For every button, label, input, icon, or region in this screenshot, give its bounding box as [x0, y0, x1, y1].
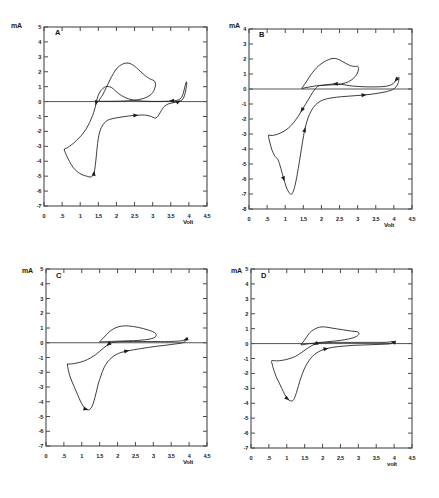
x-tick-label: 1 — [79, 213, 82, 219]
y-tick-label: 0 — [237, 341, 248, 347]
axes-frame — [249, 29, 412, 209]
y-tick-label: -5 — [30, 173, 41, 179]
y-tick-label: -3 — [237, 385, 248, 391]
y-tick-label: 0 — [30, 99, 41, 105]
y-tick-label: 4 — [235, 26, 246, 32]
y-tick-label: -8 — [235, 206, 246, 212]
x-tick-label: 2.5 — [131, 213, 138, 219]
panel-b-plot — [219, 0, 439, 249]
x-tick-label: 0 — [248, 216, 251, 222]
y-tick-label: -1 — [237, 356, 248, 362]
y-tick-label: 3 — [235, 41, 246, 47]
direction-arrow-icon — [92, 170, 97, 176]
x-tick-label: 1.5 — [300, 216, 307, 222]
direction-arrow-icon — [281, 176, 286, 182]
x-tick-label: 0 — [43, 213, 46, 219]
y-tick-label: -4 — [235, 146, 246, 152]
y-tick-label: -2 — [237, 370, 248, 376]
direction-arrow-icon — [302, 127, 307, 133]
direction-arrow-icon — [94, 100, 99, 106]
figure-panel-grid: mA A Volt 0.511.522.533.544.5543210-1-2-… — [0, 0, 439, 498]
y-tick-label: -3 — [32, 384, 43, 390]
panel-b: mA B Volt 0.511.522.533.544.543210-1-2-3… — [219, 0, 439, 249]
y-tick-label: -1 — [235, 101, 246, 107]
x-tick-label: 3.5 — [168, 453, 175, 459]
direction-arrow-icon — [361, 93, 366, 98]
y-tick-label: 5 — [32, 266, 43, 272]
x-tick-label: 3.5 — [372, 216, 379, 222]
y-tick-label: -5 — [237, 415, 248, 421]
y-tick-label: -2 — [235, 116, 246, 122]
y-tick-label: -4 — [30, 158, 41, 164]
y-tick-label: -6 — [235, 176, 246, 182]
y-tick-label: 2 — [30, 69, 41, 75]
y-tick-label: -1 — [30, 114, 41, 120]
x-tick-label: 1 — [80, 453, 83, 459]
y-tick-label: -5 — [235, 161, 246, 167]
y-tick-label: 1 — [30, 84, 41, 90]
x-tick-label: 1.5 — [95, 213, 102, 219]
y-tick-label: 2 — [237, 311, 248, 317]
direction-arrow-icon — [333, 82, 338, 86]
x-tick-label: .5 — [267, 455, 271, 461]
y-tick-label: 3 — [32, 296, 43, 302]
x-tick-label: 4.5 — [204, 213, 211, 219]
x-tick-label: 2 — [116, 453, 119, 459]
x-tick-label: 4 — [393, 455, 396, 461]
y-tick-label: -1 — [32, 355, 43, 361]
y-tick-label: -7 — [32, 443, 43, 449]
y-tick-label: -3 — [235, 131, 246, 137]
x-tick-label: 1.5 — [96, 453, 103, 459]
x-tick-label: 4 — [392, 216, 395, 222]
y-tick-label: 1 — [32, 325, 43, 331]
direction-arrow-icon — [133, 113, 138, 117]
y-tick-label: -7 — [237, 445, 248, 451]
x-tick-label: 1 — [285, 455, 288, 461]
y-tick-label: 4 — [32, 281, 43, 287]
voltammogram-trace — [268, 77, 398, 194]
y-tick-label: -6 — [32, 428, 43, 434]
y-tick-label: -5 — [32, 414, 43, 420]
voltammogram-trace-upper — [100, 326, 157, 342]
x-tick-label: 4.5 — [204, 453, 211, 459]
x-tick-label: .5 — [62, 453, 66, 459]
y-tick-label: -7 — [235, 191, 246, 197]
x-tick-label: 1.5 — [301, 455, 308, 461]
x-tick-label: 2.5 — [336, 216, 343, 222]
direction-arrow-icon — [83, 407, 89, 412]
y-tick-label: -2 — [30, 128, 41, 134]
axes-frame — [251, 269, 412, 448]
voltammogram-trace — [67, 339, 186, 410]
x-tick-label: 3 — [152, 453, 155, 459]
y-tick-label: 2 — [235, 56, 246, 62]
panel-a-plot — [0, 0, 219, 249]
x-tick-label: 3 — [357, 455, 360, 461]
direction-arrow-icon — [323, 346, 329, 351]
y-tick-label: 3 — [237, 296, 248, 302]
x-tick-label: 1 — [284, 216, 287, 222]
x-tick-label: 4.5 — [409, 216, 416, 222]
voltammogram-trace-upper — [99, 63, 156, 101]
x-tick-label: 3 — [151, 213, 154, 219]
voltammogram-trace — [64, 82, 186, 177]
x-tick-label: 2.5 — [337, 455, 344, 461]
panel-d: mA D volt 0.511.522.533.544.5543210-1-2-… — [219, 249, 439, 498]
x-tick-label: 3 — [356, 216, 359, 222]
x-tick-label: .5 — [265, 216, 269, 222]
x-tick-label: 4 — [187, 213, 190, 219]
y-tick-label: -6 — [237, 430, 248, 436]
x-tick-label: 2.5 — [132, 453, 139, 459]
x-tick-label: 2 — [321, 455, 324, 461]
y-tick-label: 0 — [235, 86, 246, 92]
y-tick-label: -7 — [30, 203, 41, 209]
y-tick-label: 5 — [30, 24, 41, 30]
x-tick-label: 2 — [320, 216, 323, 222]
axes-frame — [46, 269, 207, 446]
y-tick-label: 2 — [32, 310, 43, 316]
y-tick-label: -3 — [30, 143, 41, 149]
panel-c: mA C Volt 0.511.522.533.544.5543210-1-2-… — [0, 249, 219, 498]
direction-arrow-icon — [169, 99, 174, 103]
y-tick-label: 4 — [30, 39, 41, 45]
y-tick-label: 3 — [30, 54, 41, 60]
y-tick-label: 0 — [32, 340, 43, 346]
